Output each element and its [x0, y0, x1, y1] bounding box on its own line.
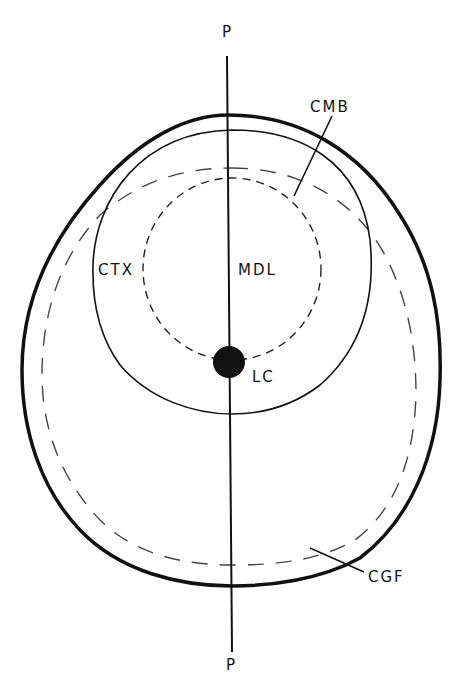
- label-top-p: P: [222, 23, 233, 41]
- lc-dot: [213, 346, 245, 378]
- label-bottom-p: P: [226, 656, 237, 674]
- label-lc: LC: [252, 368, 275, 386]
- label-mdl: MDL: [238, 261, 277, 279]
- medulla-dashed-circle: [143, 178, 321, 360]
- label-cgf: CGF: [368, 568, 405, 586]
- label-cmb: CMB: [310, 98, 350, 116]
- label-ctx: CTX: [98, 261, 134, 279]
- cross-section-diagram: P P CTX MDL LC CMB CGF: [0, 0, 455, 691]
